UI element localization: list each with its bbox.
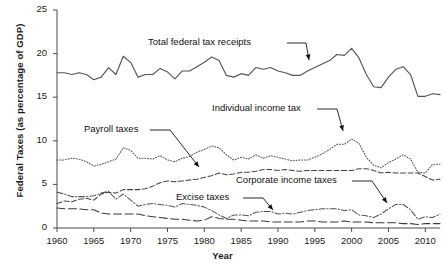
annotation-label-1: Individual income tax [212, 102, 301, 113]
annotation-label-3: Corporate income taxes [236, 174, 337, 185]
x-axis-title: Year [0, 250, 445, 261]
y-tick-label: 20 [23, 47, 47, 58]
x-tick-label: 1985 [224, 235, 258, 246]
x-tick-label: 1995 [298, 235, 332, 246]
x-tick-label: 1965 [77, 235, 111, 246]
y-tick-label: 5 [23, 177, 47, 188]
y-tick-label: 10 [23, 134, 47, 145]
x-tick-label: 1970 [114, 235, 148, 246]
series-line-1 [57, 139, 440, 173]
x-tick-label: 1975 [150, 235, 184, 246]
y-tick-label: 0 [23, 221, 47, 232]
x-tick-label: 1990 [261, 235, 295, 246]
y-tick-label: 15 [23, 90, 47, 101]
x-tick-label: 2000 [335, 235, 369, 246]
y-tick-label: 25 [23, 3, 47, 14]
annotation-label-4: Excise taxes [176, 191, 229, 202]
annotation-label-2: Payroll taxes [84, 123, 138, 134]
x-tick-label: 1960 [40, 235, 74, 246]
tax-receipts-line-chart: Federal Taxes (as percentage of GDP) Yea… [0, 0, 445, 268]
annotation-label-0: Total federal tax receipts [148, 36, 251, 47]
x-tick-label: 1980 [187, 235, 221, 246]
y-axis-title: Federal Taxes (as percentage of GDP) [14, 38, 25, 198]
x-tick-label: 2005 [371, 235, 405, 246]
series-line-3 [57, 191, 440, 219]
series-line-0 [57, 48, 440, 96]
x-tick-label: 2010 [408, 235, 442, 246]
